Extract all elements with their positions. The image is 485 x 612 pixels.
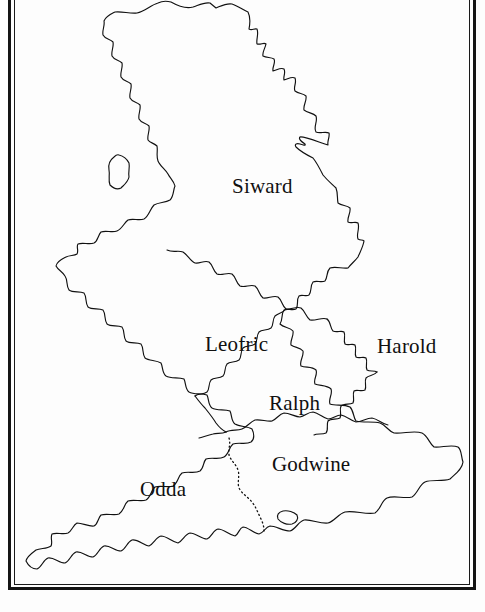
coastline-mainland [26, 1, 463, 569]
boundary-siward-leofric [167, 250, 327, 320]
coastline-isle-of-wight [277, 511, 297, 525]
map-page: Siward Leofric Harold Ralph Godwine Odda [0, 0, 485, 612]
boundary-odda-ralph [195, 396, 226, 432]
boundary-harold-ralph [314, 372, 377, 435]
coastline-isle-of-man [109, 155, 130, 189]
boundary-odda-north [199, 432, 226, 438]
earldom-label-ralph: Ralph [269, 393, 320, 414]
earldom-label-siward: Siward [232, 176, 293, 197]
boundary-leofric-harold [327, 319, 377, 372]
earldom-label-godwine: Godwine [272, 454, 350, 475]
boundary-odda-godwine-dotted [229, 438, 264, 531]
earldom-label-harold: Harold [377, 336, 437, 357]
earldom-label-odda: Odda [140, 479, 186, 500]
earldom-label-leofric: Leofric [205, 334, 268, 355]
map-drawing [0, 0, 485, 612]
